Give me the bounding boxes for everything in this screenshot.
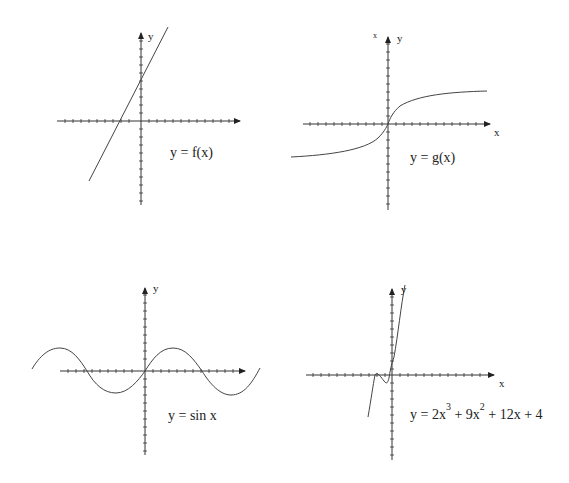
cubic-curve bbox=[368, 285, 405, 417]
graph-g bbox=[291, 37, 490, 210]
graph-cubic bbox=[306, 285, 494, 460]
graph-f bbox=[57, 27, 240, 205]
y-axis-label: y bbox=[397, 32, 403, 44]
eq-exponent: 2 bbox=[480, 401, 485, 412]
eq-part: + 12x + 4 bbox=[485, 407, 543, 422]
equation-label: y = f(x) bbox=[170, 145, 213, 161]
equation-label: y = sin x bbox=[168, 408, 217, 424]
graph-sin bbox=[32, 288, 260, 455]
x-axis-label: x bbox=[499, 377, 505, 389]
y-axis-label: y bbox=[148, 30, 154, 42]
stray-mark: x bbox=[373, 31, 377, 40]
equation-label: y = 2x3 + 9x2 + 12x + 4 bbox=[410, 404, 543, 423]
f-curve bbox=[89, 27, 168, 181]
x-axis-label: x bbox=[494, 126, 500, 138]
y-axis-label: y bbox=[153, 282, 159, 294]
eq-exponent: 3 bbox=[446, 401, 451, 412]
y-axis-label: y bbox=[401, 283, 407, 295]
equation-label: y = g(x) bbox=[410, 150, 455, 166]
eq-part: y = 2x bbox=[410, 407, 446, 422]
eq-part: + 9x bbox=[451, 407, 480, 422]
